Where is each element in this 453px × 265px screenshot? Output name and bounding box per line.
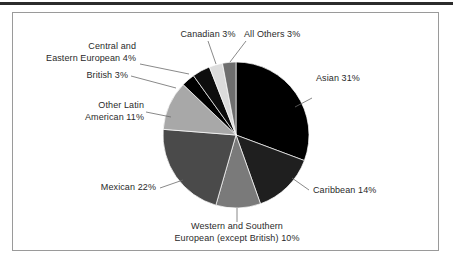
leader-line-canadian (208, 41, 216, 64)
leader-line-all-others (230, 41, 246, 62)
label-western-southern: Western and Southern European (except Br… (162, 221, 312, 244)
label-caribbean: Caribbean 14% (313, 185, 376, 197)
leader-line-mexican (160, 180, 183, 188)
leader-line-central-eastern (140, 64, 189, 74)
label-all-others: All Others 3% (244, 29, 300, 41)
label-western-southern-line2: European (except British) 10% (162, 233, 312, 245)
figure-root: Asian 31% Caribbean 14% Western and Sout… (0, 0, 453, 265)
label-british: British 3% (26, 70, 128, 82)
label-other-latin-line1: Other Latin (26, 100, 144, 112)
leader-line-british (131, 76, 176, 88)
label-central-eastern-european: Central and Eastern European 4% (16, 41, 136, 64)
label-central-eastern-line2: Eastern European 4% (16, 53, 136, 65)
label-asian: Asian 31% (316, 73, 360, 85)
label-western-southern-line1: Western and Southern (162, 221, 312, 233)
label-other-latin-american: Other Latin American 11% (26, 100, 144, 123)
label-mexican: Mexican 22% (36, 182, 156, 194)
label-central-eastern-line1: Central and (16, 41, 136, 53)
label-canadian: Canadian 3% (158, 29, 258, 41)
pie-slices-group (163, 62, 309, 208)
label-other-latin-line2: American 11% (26, 112, 144, 124)
leader-line-caribbean (292, 178, 309, 190)
